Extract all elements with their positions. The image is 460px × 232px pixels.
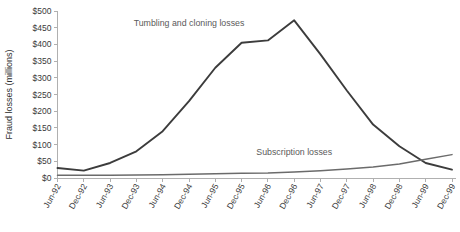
series-line-tumbling-and-cloning-losses (58, 20, 453, 170)
series-line-subscription-losses (58, 155, 453, 176)
x-tick-label: Jun-98 (357, 182, 379, 210)
x-tick-label: Dec-94 (172, 182, 194, 211)
y-tick-label: $400 (33, 39, 52, 49)
series-annotation-subscription-losses: Subscription losses (256, 147, 332, 157)
x-tick-label: Dec-96 (277, 182, 299, 211)
y-tick-label: $200 (33, 106, 52, 116)
y-tick-label: $50 (37, 156, 51, 166)
y-tick-label: $100 (33, 140, 52, 150)
x-tick-label: Jun-94 (146, 182, 168, 210)
x-tick-label: Dec-97 (330, 182, 352, 211)
x-tick-label: Dec-92 (67, 182, 89, 211)
x-tick-label: Jun-99 (409, 182, 431, 210)
x-tick-label: Dec-95 (224, 182, 246, 211)
y-tick-label: $150 (33, 123, 52, 133)
x-tick-label: Jun-93 (94, 182, 116, 210)
x-tick-label: Jun-97 (304, 182, 326, 210)
x-tick-label: Jun-96 (251, 182, 273, 210)
x-tick-label: Dec-93 (119, 182, 141, 211)
x-tick-label: Dec-99 (435, 182, 457, 211)
y-tick-label: $300 (33, 73, 52, 83)
series-annotation-tumbling-and-cloning-losses: Tumbling and cloning losses (134, 18, 245, 28)
y-axis-title: Fraud losses (millions) (4, 49, 14, 139)
y-tick-label: $250 (33, 90, 52, 100)
fraud-losses-line-chart: $0$50$100$150$200$250$300$350$400$450$50… (0, 0, 460, 232)
y-tick-label: $350 (33, 56, 52, 66)
y-tick-label: $0 (42, 173, 52, 183)
chart-canvas: $0$50$100$150$200$250$300$350$400$450$50… (0, 0, 460, 232)
y-tick-label: $450 (33, 23, 52, 33)
x-tick-label: Jun-95 (199, 182, 221, 210)
x-tick-label: Dec-98 (382, 182, 404, 211)
x-tick-label: Jun-92 (41, 182, 63, 210)
y-tick-label: $500 (33, 6, 52, 16)
